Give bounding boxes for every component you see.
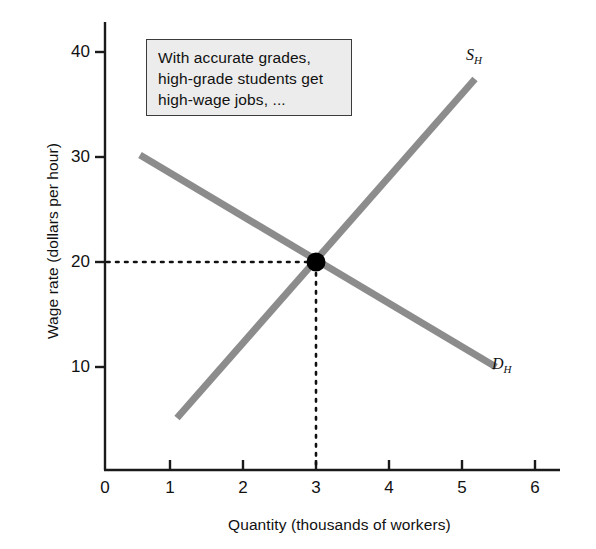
x-tick-label-1: 1: [155, 478, 185, 498]
x-tick-label-3: 3: [301, 478, 331, 498]
x-tick-label-2: 2: [228, 478, 258, 498]
annotation-line-3: high-wage jobs, ...: [158, 89, 341, 110]
equilibrium-point: [307, 253, 326, 272]
x-tick-label-6: 6: [520, 478, 550, 498]
x-axis-title: Quantity (thousands of workers): [228, 516, 451, 534]
demand-curve-label-letter: D: [492, 355, 504, 372]
supply-demand-figure: 40 30 20 10 0 1 2 3 4 5 6 Wage rate (dol…: [0, 0, 596, 549]
y-axis-ticks: [95, 52, 105, 367]
supply-curve-label-letter: S: [466, 46, 474, 63]
demand-curve-label: DH: [492, 355, 512, 375]
demand-curve-label-subscript: H: [504, 363, 512, 375]
y-axis-title: Wage rate (dollars per hour): [44, 116, 62, 366]
y-tick-label-40: 40: [52, 42, 90, 62]
annotation-line-1: With accurate grades,: [158, 47, 341, 68]
supply-curve-label: SH: [466, 46, 482, 66]
supply-curve: [177, 79, 475, 418]
x-axis-ticks: [170, 460, 535, 470]
x-tick-label-5: 5: [447, 478, 477, 498]
supply-curve-label-subscript: H: [474, 54, 482, 66]
annotation-box: With accurate grades, high-grade student…: [146, 39, 352, 116]
x-tick-label-0: 0: [90, 478, 120, 498]
annotation-line-2: high-grade students get: [158, 68, 341, 89]
x-tick-label-4: 4: [374, 478, 404, 498]
